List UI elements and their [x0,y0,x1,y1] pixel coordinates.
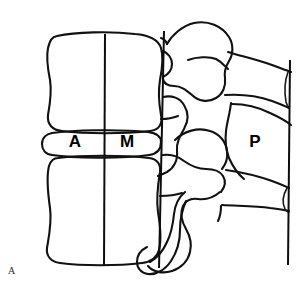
panel-label: A [8,265,16,276]
anterior-column-label: A [69,132,81,151]
spine-figure: A M P A [0,0,308,294]
middle-column-line [104,34,105,266]
spine-line-drawing: A M P A [0,0,308,294]
posterior-column-label: P [249,132,260,151]
middle-column-label: M [120,132,134,151]
